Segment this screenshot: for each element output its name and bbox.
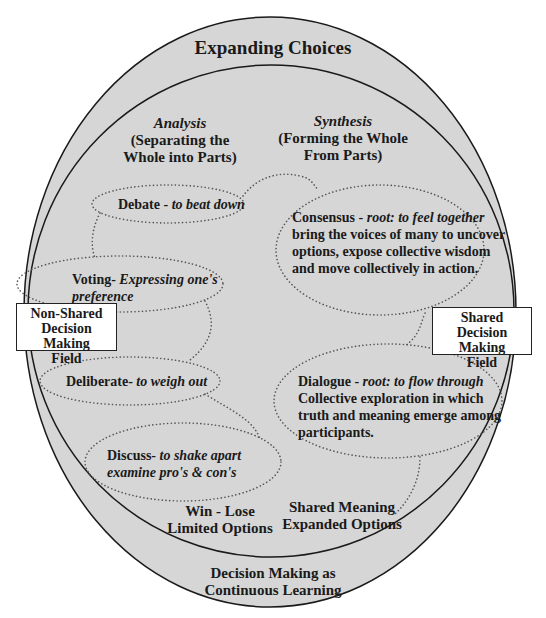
continuous-learning-line-2: Continuous Learning — [0, 582, 546, 599]
deliberate-text: Deliberate- to weigh out — [66, 373, 207, 390]
non-shared-line-2: Decision Making — [20, 321, 113, 351]
expanding-choices-label: Expanding Choices — [0, 37, 546, 59]
synthesis-line2: From Parts) — [253, 147, 433, 164]
dialogue-line-2: Collective exploration in which — [298, 390, 501, 407]
synthesis-heading: Synthesis — [253, 113, 433, 130]
discuss-meaning-2: examine pro's & con's — [107, 464, 241, 481]
debate-meaning: to beat down — [172, 197, 245, 212]
voting-meaning-1: Expressing one's — [119, 272, 217, 287]
shared-line-2: Decision Making — [436, 325, 528, 355]
debate-term: Debate - — [118, 197, 172, 212]
voting-term: Voting- — [72, 272, 119, 287]
dialogue-term: Dialogue - — [298, 374, 363, 389]
deliberate-term: Deliberate- — [66, 374, 136, 389]
consensus-line-2: bring the voices of many to uncover — [292, 226, 505, 243]
consensus-meaning: root: to feel together — [367, 210, 485, 225]
consensus-text: Consensus - root: to feel together bring… — [292, 209, 505, 277]
win-lose-label: Win - Lose — [155, 503, 285, 520]
discuss-term: Discuss- — [107, 448, 160, 463]
dialogue-line-4: participants. — [298, 424, 501, 441]
deliberate-meaning: to weigh out — [136, 374, 207, 389]
dialogue-line-3: truth and meaning emerge among — [298, 407, 501, 424]
continuous-learning-line-1: Decision Making as — [0, 565, 546, 582]
consensus-line-4: and move collectively in action. — [292, 260, 505, 277]
discuss-meaning-1: to shake apart — [160, 448, 242, 463]
dialogue-text: Dialogue - root: to flow through Collect… — [298, 373, 501, 441]
consensus-term: Consensus - — [292, 210, 367, 225]
shared-field-box: Shared Decision Making Field — [432, 307, 532, 355]
shared-meaning-label: Shared Meaning — [272, 499, 412, 516]
non-shared-field-box: Non-Shared Decision Making Field — [16, 303, 117, 351]
non-shared-line-3: Field — [20, 351, 113, 366]
limited-options-label: Limited Options — [155, 520, 285, 537]
voting-text: Voting- Expressing one's preference — [72, 271, 218, 305]
shared-line-3: Field — [436, 355, 528, 370]
dialogue-meaning: root: to flow through — [363, 374, 484, 389]
synthesis-line1: (Forming the Whole — [253, 130, 433, 147]
debate-text: Debate - to beat down — [118, 196, 245, 213]
expanded-options-label: Expanded Options — [272, 516, 412, 533]
analysis-line2: Whole into Parts) — [90, 149, 270, 166]
analysis-heading: Analysis — [90, 115, 270, 132]
analysis-line1: (Separating the — [90, 132, 270, 149]
consensus-line-3: options, expose collective wisdom — [292, 243, 505, 260]
discuss-text: Discuss- to shake apart examine pro's & … — [107, 447, 241, 481]
non-shared-line-1: Non-Shared — [20, 306, 113, 321]
shared-line-1: Shared — [436, 310, 528, 325]
